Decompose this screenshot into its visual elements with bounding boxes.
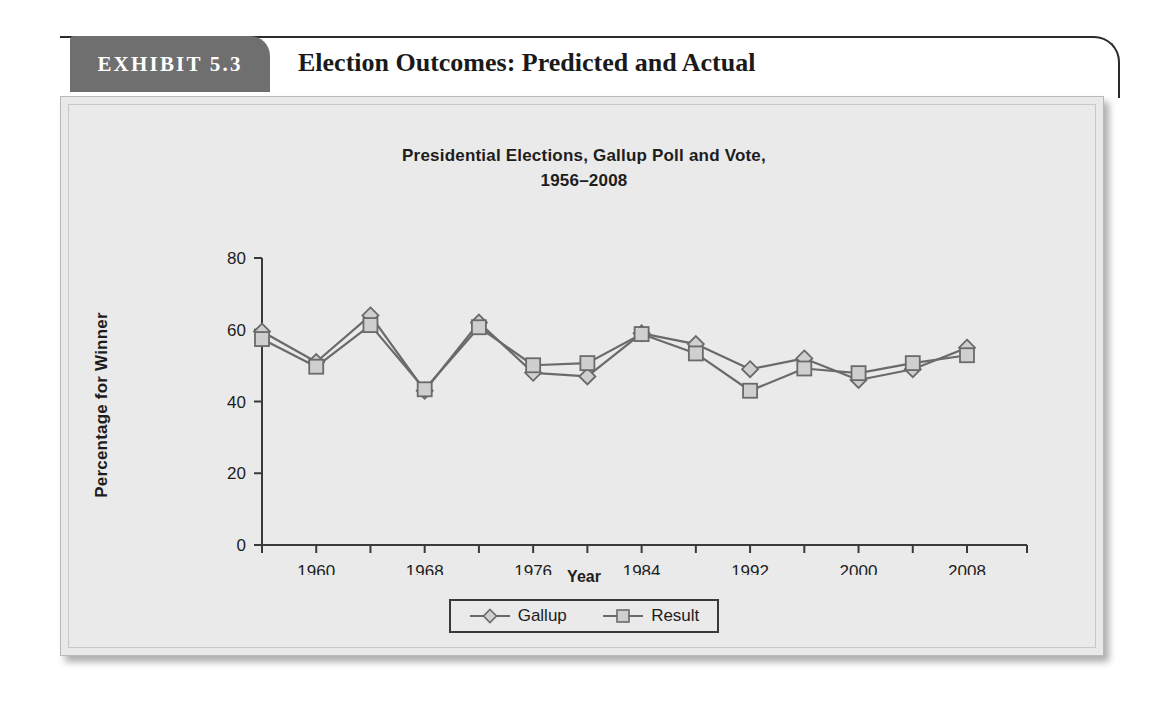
exhibit-number-tab: EXHIBIT 5.3 xyxy=(70,36,270,92)
x-tick-label: 1960 xyxy=(297,562,335,575)
data-point-marker xyxy=(852,366,866,380)
y-tick-label: 60 xyxy=(227,321,246,340)
legend-label-gallup: Gallup xyxy=(518,606,567,626)
data-point-marker xyxy=(580,356,594,370)
data-point-marker xyxy=(906,356,920,370)
y-tick-label: 80 xyxy=(227,249,246,268)
x-tick-label: 2008 xyxy=(948,562,986,575)
data-point-marker xyxy=(255,332,269,346)
exhibit-title: Election Outcomes: Predicted and Actual xyxy=(298,48,755,78)
line-chart-plot: 0204060801960196819761984199220002008 xyxy=(69,105,1099,575)
data-point-marker xyxy=(743,384,757,398)
y-tick-label: 20 xyxy=(227,464,246,483)
x-tick-label: 1968 xyxy=(406,562,444,575)
legend-label-result: Result xyxy=(651,606,699,626)
x-tick-label: 2000 xyxy=(840,562,878,575)
figure-panel-inner: Presidential Elections, Gallup Poll and … xyxy=(68,104,1096,648)
chart-legend: Gallup Result xyxy=(449,599,719,633)
diamond-marker-icon xyxy=(469,607,511,625)
data-point-marker xyxy=(418,382,432,396)
data-point-marker xyxy=(742,361,758,377)
x-tick-label: 1984 xyxy=(623,562,661,575)
exhibit-page: EXHIBIT 5.3 Election Outcomes: Predicted… xyxy=(0,0,1167,723)
square-marker-icon xyxy=(602,607,644,625)
data-point-marker xyxy=(526,358,540,372)
exhibit-number-label: EXHIBIT 5.3 xyxy=(97,52,242,77)
y-tick-label: 0 xyxy=(237,536,246,555)
x-tick-label: 1992 xyxy=(731,562,769,575)
legend-item-gallup: Gallup xyxy=(469,606,567,626)
data-point-marker xyxy=(960,348,974,362)
data-point-marker xyxy=(797,361,811,375)
figure-panel: Presidential Elections, Gallup Poll and … xyxy=(60,96,1104,656)
data-point-marker xyxy=(635,327,649,341)
chart-area: Presidential Elections, Gallup Poll and … xyxy=(69,105,1099,651)
data-point-marker xyxy=(472,320,486,334)
x-tick-label: 1976 xyxy=(514,562,552,575)
data-point-marker xyxy=(309,360,323,374)
legend-item-result: Result xyxy=(602,606,699,626)
y-tick-label: 40 xyxy=(227,393,246,412)
exhibit-header: EXHIBIT 5.3 Election Outcomes: Predicted… xyxy=(60,36,1120,98)
data-point-marker xyxy=(363,318,377,332)
data-point-marker xyxy=(689,346,703,360)
